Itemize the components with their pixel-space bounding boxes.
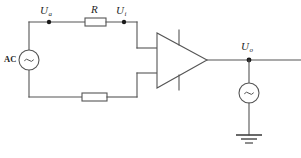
node-label-ua-symbol: U [40, 4, 48, 16]
ground-symbol [236, 135, 262, 143]
ac-source-label: AC [4, 55, 17, 64]
resistor-series-body [85, 18, 106, 26]
node-label-uo-subscript: o [249, 46, 253, 54]
op-amp-group [157, 30, 207, 90]
node-label-ua: Ua [40, 5, 51, 16]
node-label-uo-symbol: U [241, 40, 249, 52]
node-label-ui: Ui [116, 5, 126, 16]
circuit-diagram: AC Ua R Ui Uo [0, 0, 301, 158]
node-label-ui-symbol: U [116, 4, 124, 16]
node-label-uo: Uo [241, 41, 252, 52]
ac-source-group [19, 22, 39, 97]
node-dot-ua [47, 20, 51, 24]
node-label-ua-subscript: a [48, 10, 52, 18]
resistor-feedback-body [82, 93, 107, 101]
resistor-series-label: R [91, 4, 98, 15]
schematic-canvas [0, 0, 301, 158]
op-amp-triangle [157, 33, 207, 88]
bottom-branch-group [29, 73, 157, 101]
output-rail-group [207, 58, 301, 63]
top-branch-group [29, 18, 157, 48]
output-source-group [239, 60, 259, 135]
node-dot-ui [122, 20, 126, 24]
